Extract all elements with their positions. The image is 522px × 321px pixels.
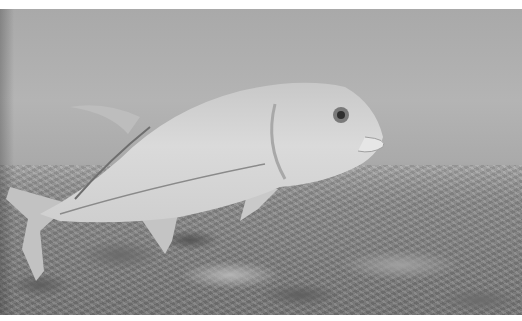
dorsal-fin [70, 105, 140, 134]
fish-body [40, 83, 383, 223]
tail-fin [6, 187, 70, 281]
trevally-fish [0, 9, 522, 315]
underwater-photo [0, 9, 522, 315]
